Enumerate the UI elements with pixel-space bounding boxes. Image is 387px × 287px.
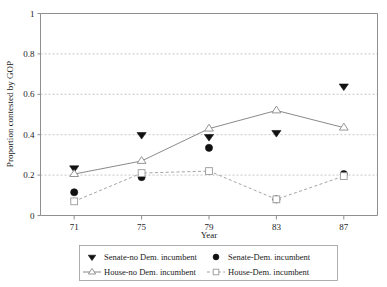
x-tick-label: 83 (272, 222, 282, 232)
series-markers-3 (71, 168, 347, 205)
y-axis-title: Proportion contested by GOP (5, 61, 15, 167)
data-series-layer (70, 84, 349, 205)
y-tick-label: 0 (30, 211, 35, 221)
chart-legend: Senate-no Dem. incumbentSenate-Dem. incu… (80, 246, 338, 281)
data-point-marker (213, 254, 219, 260)
x-tick-label: 87 (339, 222, 349, 232)
legend-item-1[interactable]: Senate-Dem. incumbent (213, 252, 311, 262)
legend-label: House-no Dem. incumbent (104, 267, 196, 277)
series-3 (74, 171, 344, 201)
data-point-marker (339, 84, 348, 91)
data-point-marker (138, 170, 145, 177)
y-tick-label: 0.2 (23, 170, 34, 180)
y-tick-label: 0.8 (23, 49, 35, 59)
data-point-marker (204, 135, 213, 142)
y-tick-label: 1 (30, 9, 35, 19)
series-2 (74, 110, 344, 174)
data-point-marker (71, 198, 78, 205)
data-point-marker (213, 269, 219, 275)
x-tick-label: 71 (70, 222, 79, 232)
data-point-marker (137, 133, 146, 140)
chart-container: 00.20.40.60.81 7175798387 Proportion con… (0, 0, 387, 287)
series-line (74, 110, 344, 174)
data-point-marker (273, 196, 280, 203)
y-tick-label: 0.4 (23, 130, 35, 140)
legend-label: House-Dem. incumbent (228, 267, 310, 277)
data-point-marker (272, 130, 281, 137)
data-point-marker (272, 106, 281, 113)
legend-label: Senate-Dem. incumbent (228, 252, 311, 262)
proportion-contested-line-chart: 00.20.40.60.81 7175798387 Proportion con… (0, 0, 387, 287)
x-tick-label: 75 (137, 222, 147, 232)
y-tick-label: 0.6 (23, 89, 35, 99)
data-point-marker (205, 144, 212, 151)
data-point-marker (340, 173, 347, 180)
y-axis-tick-labels: 00.20.40.60.81 (23, 9, 40, 221)
legend-item-0[interactable]: Senate-no Dem. incumbent (88, 252, 197, 262)
x-axis-title: Year (201, 230, 218, 240)
axes (41, 14, 378, 216)
series-line (74, 171, 344, 201)
legend-label: Senate-no Dem. incumbent (104, 252, 197, 262)
data-point-marker (71, 189, 78, 196)
data-point-marker (206, 168, 213, 175)
